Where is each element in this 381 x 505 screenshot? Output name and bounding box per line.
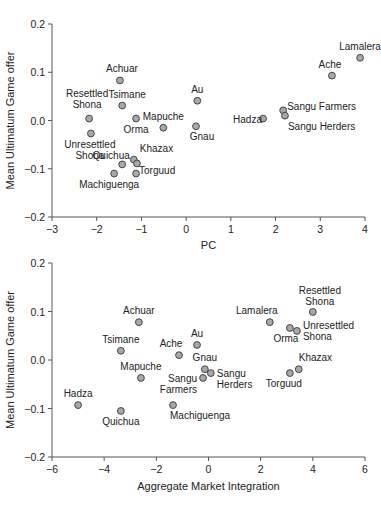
x-tick-label: 6 bbox=[362, 463, 368, 475]
point-label: Unresettled bbox=[303, 320, 354, 331]
point-label: Lamalera bbox=[236, 305, 278, 316]
x-tick-label: −6 bbox=[46, 463, 58, 475]
data-point bbox=[176, 352, 183, 359]
point-label: Khazax bbox=[140, 143, 173, 154]
data-point bbox=[282, 112, 289, 119]
point-label: Unresettled bbox=[64, 139, 115, 150]
data-point bbox=[117, 347, 124, 354]
point-label: Mapuche bbox=[143, 111, 185, 122]
point-label: Sangu bbox=[168, 373, 197, 384]
y-axis-label: Mean Ultimatum Game offer bbox=[4, 51, 16, 189]
point-label: Orma bbox=[273, 333, 298, 344]
x-tick-label: 1 bbox=[228, 223, 234, 235]
data-point bbox=[309, 309, 316, 316]
point-label: Resettled bbox=[66, 88, 108, 99]
data-point bbox=[135, 319, 142, 326]
point-label: Sangu Herders bbox=[288, 121, 355, 132]
point-label: Orma bbox=[124, 124, 149, 135]
point-label: Machiguenga bbox=[79, 179, 139, 190]
y-tick-label: 0.2 bbox=[30, 18, 45, 30]
y-tick-label: −0.2 bbox=[24, 211, 45, 223]
x-tick-label: 2 bbox=[258, 463, 264, 475]
point-label: Shona bbox=[305, 296, 334, 307]
point-label: Resettled bbox=[299, 285, 341, 296]
x-tick-label: 0 bbox=[183, 223, 189, 235]
x-tick-label: −4 bbox=[98, 463, 110, 475]
point-label: Ache bbox=[319, 59, 342, 70]
data-point bbox=[194, 97, 201, 104]
point-label: Shona bbox=[303, 331, 332, 342]
data-point bbox=[160, 124, 167, 131]
y-tick-label: −0.2 bbox=[24, 451, 45, 463]
point-label: Machiguenga bbox=[170, 410, 230, 421]
chart-market-integration: 0.20.10.0−0.1−0.2−6−4−20246Aggregate Mar… bbox=[4, 257, 368, 492]
point-label: Farmers bbox=[160, 384, 197, 395]
point-label: Shona bbox=[73, 99, 102, 110]
data-point bbox=[194, 342, 201, 349]
data-point bbox=[134, 160, 141, 167]
point-label: Gnau bbox=[193, 352, 217, 363]
x-tick-label: 4 bbox=[362, 223, 368, 235]
data-point bbox=[286, 325, 293, 332]
data-point bbox=[329, 72, 336, 79]
point-label: Mapuche bbox=[120, 361, 162, 372]
point-label: Achuar bbox=[123, 305, 155, 316]
x-tick-label: −2 bbox=[150, 463, 162, 475]
point-label: Gnau bbox=[190, 131, 214, 142]
point-label: Sangu bbox=[217, 368, 246, 379]
point-label: Achuar bbox=[106, 63, 138, 74]
x-tick-label: 2 bbox=[273, 223, 279, 235]
data-point bbox=[286, 370, 293, 377]
figure: 0.20.10.0−0.1−0.2−3−2−101234PCMean Ultim… bbox=[0, 0, 381, 505]
point-label: Tsimane bbox=[109, 89, 147, 100]
y-tick-label: 0.0 bbox=[30, 354, 45, 366]
x-axis-label: Aggregate Market Integration bbox=[137, 480, 279, 492]
x-tick-label: −1 bbox=[135, 223, 147, 235]
data-point bbox=[88, 130, 95, 137]
data-point bbox=[111, 170, 118, 177]
data-point bbox=[75, 402, 82, 409]
data-point bbox=[200, 375, 207, 382]
x-tick-label: 0 bbox=[206, 463, 212, 475]
point-label: Quichua bbox=[93, 150, 131, 161]
data-point bbox=[193, 123, 200, 130]
point-label: Hadza bbox=[233, 114, 262, 125]
point-label: Khazax bbox=[299, 352, 332, 363]
point-label: Hadza bbox=[64, 388, 93, 399]
data-point bbox=[170, 402, 177, 409]
y-tick-label: 0.0 bbox=[30, 115, 45, 127]
y-tick-label: 0.1 bbox=[30, 66, 45, 78]
data-point bbox=[294, 328, 301, 335]
data-point bbox=[295, 366, 302, 373]
data-point bbox=[207, 370, 214, 377]
data-point bbox=[357, 54, 364, 61]
y-axis-label: Mean Ultimatum Game offer bbox=[4, 291, 16, 429]
point-label: Ache bbox=[160, 338, 183, 349]
data-point bbox=[119, 102, 126, 109]
data-point bbox=[201, 366, 208, 373]
x-tick-label: 4 bbox=[310, 463, 316, 475]
y-tick-label: −0.1 bbox=[24, 163, 45, 175]
y-tick-label: 0.1 bbox=[30, 306, 45, 318]
point-label: Torguud bbox=[266, 378, 302, 389]
point-label: Tsimane bbox=[102, 334, 140, 345]
y-tick-label: −0.1 bbox=[24, 403, 45, 415]
data-point bbox=[117, 77, 124, 84]
x-tick-label: −2 bbox=[91, 223, 103, 235]
data-point bbox=[86, 115, 93, 122]
point-label: Torguud bbox=[139, 165, 175, 176]
x-tick-label: 3 bbox=[317, 223, 323, 235]
data-point bbox=[266, 319, 273, 326]
point-label: Herders bbox=[217, 379, 253, 390]
point-label: Quichua bbox=[102, 416, 140, 427]
chart-pc: 0.20.10.0−0.1−0.2−3−2−101234PCMean Ultim… bbox=[4, 18, 381, 251]
point-label: Sangu Farmers bbox=[287, 101, 356, 112]
data-point bbox=[117, 408, 124, 415]
data-point bbox=[138, 375, 145, 382]
data-point bbox=[133, 115, 140, 122]
y-tick-label: 0.2 bbox=[30, 257, 45, 269]
point-label: Au bbox=[191, 84, 203, 95]
point-label: Au bbox=[191, 328, 203, 339]
point-label: Lamalera bbox=[339, 41, 381, 52]
x-axis-label: PC bbox=[201, 239, 216, 251]
